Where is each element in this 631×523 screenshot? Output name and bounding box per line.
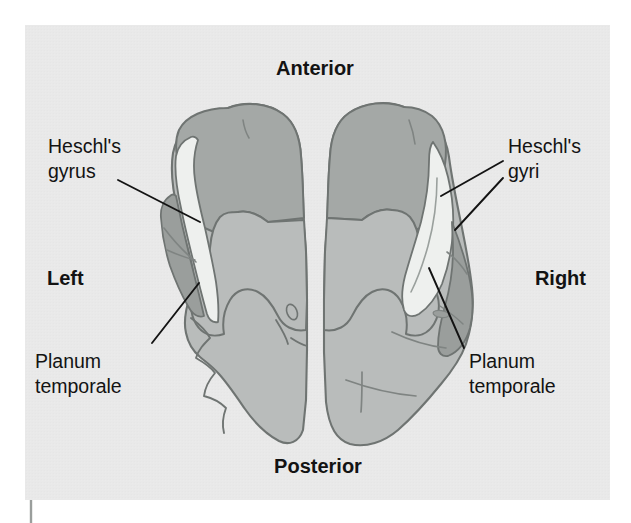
label-line: Planum: [35, 350, 101, 372]
label-right: Right: [535, 267, 586, 289]
label-line: Heschl's: [508, 135, 581, 157]
panel-texture: [25, 25, 610, 500]
right-midline-sulcus: [361, 372, 362, 412]
label-anterior: Anterior: [276, 57, 354, 79]
brain-diagram-svg: Anterior Posterior Left Right Heschl's g…: [0, 0, 631, 523]
label-line: temporale: [469, 375, 556, 397]
label-line: gyri: [508, 160, 539, 182]
label-left: Left: [47, 267, 84, 289]
label-line: Heschl's: [48, 135, 121, 157]
label-line: Planum: [469, 350, 535, 372]
label-posterior: Posterior: [274, 455, 362, 477]
label-line: gyrus: [48, 160, 96, 182]
label-line: temporale: [35, 375, 122, 397]
figure-root: Anterior Posterior Left Right Heschl's g…: [0, 0, 631, 523]
